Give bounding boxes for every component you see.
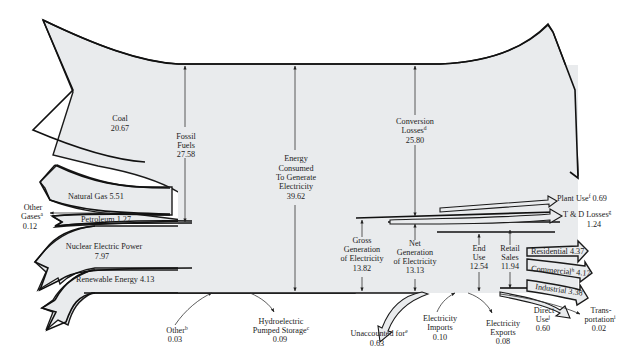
retail-sales-label-2: Sales bbox=[501, 253, 518, 262]
renewable-label: Renewable Energy 4.13 bbox=[76, 275, 154, 284]
coal-value: 20.67 bbox=[111, 124, 129, 133]
conversion-losses-value: 25.80 bbox=[406, 136, 424, 145]
hydro-pumped-value: 0.09 bbox=[273, 335, 287, 344]
hydro-pumped-label-1: Hydroelectric bbox=[258, 317, 303, 326]
conversion-losses-label-2: Lossesd bbox=[401, 125, 426, 135]
energy-consumed-label-2: Consumed bbox=[278, 164, 313, 173]
gross-generation-label-1: Gross bbox=[352, 236, 371, 245]
imports-label-2: Imports bbox=[427, 323, 452, 332]
transportation-label-2: portationi bbox=[584, 314, 616, 324]
other-gases-label-2: Gasesa bbox=[21, 211, 44, 221]
exports-value: 0.08 bbox=[496, 337, 510, 346]
coal-label: Coal bbox=[112, 114, 128, 123]
td-losses-value: 1.24 bbox=[587, 220, 601, 229]
net-generation-value: 13.13 bbox=[406, 266, 424, 275]
energy-consumed-label-3: To Generate bbox=[276, 173, 316, 182]
nuclear-label: Nuclear Electric Power bbox=[66, 242, 143, 251]
net-generation-label-3: of Electricity bbox=[394, 257, 438, 266]
exports-arrow bbox=[468, 293, 492, 313]
fossil-fuels-value: 27.58 bbox=[177, 150, 195, 159]
energy-consumed-label-1: Energy bbox=[284, 154, 308, 163]
residential-label: Residential 4.37 bbox=[531, 247, 584, 256]
other-gases-value: 0.12 bbox=[23, 222, 37, 231]
gross-generation-label-2: Generation bbox=[344, 245, 380, 254]
hydro-pumped-label-2: Pumped Storagec bbox=[253, 325, 310, 335]
end-use-label-1: End bbox=[472, 244, 485, 253]
natural-gas-label: Natural Gas 5.51 bbox=[68, 192, 124, 201]
exports-label-1: Electricity bbox=[486, 319, 521, 328]
energy-consumed-label-4: Electricity bbox=[279, 182, 314, 191]
retail-sales-label-1: Retail bbox=[500, 244, 520, 253]
imports-label-1: Electricity bbox=[423, 314, 458, 323]
unaccounted-value: 0.63 bbox=[370, 339, 384, 348]
end-use-value: 12.54 bbox=[470, 262, 488, 271]
retail-sales-value: 11.94 bbox=[501, 262, 519, 271]
end-use-label-2: Use bbox=[473, 253, 486, 262]
direct-use-label-2: Usej bbox=[536, 314, 551, 324]
direct-use-value: 0.60 bbox=[536, 324, 550, 333]
other-input-arrow bbox=[175, 293, 212, 325]
net-generation-label-1: Net bbox=[409, 239, 422, 248]
net-generation-label-2: Generation bbox=[397, 248, 433, 257]
fossil-fuels-label-2: Fuels bbox=[177, 141, 195, 150]
conversion-losses-label-1: Conversion bbox=[396, 117, 434, 126]
unaccounted-label: Unaccounted fore bbox=[350, 328, 408, 338]
td-losses-label: T & D Lossesg bbox=[563, 209, 612, 219]
gross-generation-label-3: of Electricity bbox=[341, 254, 385, 263]
imports-arrow bbox=[437, 293, 455, 312]
direct-use-label-1: Direct bbox=[534, 306, 555, 315]
plant-use-label: Plant Usef 0.69 bbox=[557, 193, 607, 203]
transportation-label-1: Trans- bbox=[590, 306, 611, 315]
petroleum-label: Petroleum 1.27 bbox=[81, 215, 131, 224]
energy-consumed-value: 39.62 bbox=[287, 192, 305, 201]
other-input-label: Otherb bbox=[166, 325, 188, 335]
other-input-value: 0.03 bbox=[168, 335, 182, 344]
fossil-fuels-label-1: Fossil bbox=[176, 132, 196, 141]
imports-value: 0.10 bbox=[433, 333, 447, 342]
nuclear-value: 7.97 bbox=[95, 252, 109, 261]
transportation-value: 0.02 bbox=[592, 324, 606, 333]
electricity-flow-diagram: Coal 20.67 Fossil Fuels 27.58 Energy Con… bbox=[0, 0, 634, 363]
gross-generation-value: 13.82 bbox=[353, 264, 371, 273]
hydro-pumped-arrow bbox=[250, 293, 274, 312]
exports-label-2: Exports bbox=[490, 328, 515, 337]
